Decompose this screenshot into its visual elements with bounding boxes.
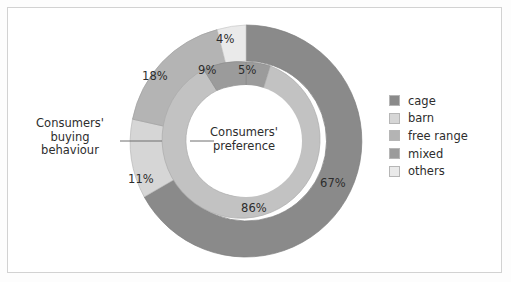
outer-label-others: 4%: [216, 32, 234, 46]
outer-ring-annotation-line-3: behaviour: [22, 144, 118, 158]
inner-ring-annotation-line-1: Consumers': [196, 126, 292, 140]
legend-item-free-range[interactable]: free range: [389, 127, 489, 145]
legend-label-cage: cage: [408, 94, 436, 108]
chart-page: 67% 11% 18% 4% 5% 86% 9% Consumers' pref…: [0, 0, 511, 282]
legend-swatch-others-icon: [389, 166, 400, 177]
inner-label-mixed: 5%: [238, 63, 256, 77]
outer-ring-annotation: Consumers' buying behaviour: [22, 117, 118, 158]
legend-swatch-free-range-icon: [389, 130, 400, 141]
legend-item-barn[interactable]: barn: [389, 110, 489, 128]
inner-label-free-range: 86%: [241, 201, 267, 215]
outer-ring-annotation-line-2: buying: [22, 131, 118, 145]
inner-label-cage: 9%: [198, 63, 216, 77]
legend-swatch-cage-icon: [389, 95, 400, 106]
outer-label-barn: 11%: [128, 172, 154, 186]
legend-item-mixed[interactable]: mixed: [389, 145, 489, 163]
inner-ring-annotation-line-2: preference: [196, 140, 292, 154]
legend-item-cage[interactable]: cage: [389, 92, 489, 110]
outer-ring-annotation-line-1: Consumers': [22, 117, 118, 131]
legend-swatch-mixed-icon: [389, 148, 400, 159]
legend-label-free-range: free range: [408, 129, 468, 143]
outer-label-cage: 67%: [320, 176, 346, 190]
legend-label-others: others: [408, 164, 445, 178]
legend-swatch-barn-icon: [389, 113, 400, 124]
legend-label-mixed: mixed: [408, 147, 443, 161]
chart-legend: cage barn free range mixed others: [389, 92, 489, 180]
inner-ring-annotation: Consumers' preference: [196, 126, 292, 153]
legend-item-others[interactable]: others: [389, 162, 489, 180]
legend-label-barn: barn: [408, 111, 434, 125]
outer-label-free-range: 18%: [142, 69, 168, 83]
